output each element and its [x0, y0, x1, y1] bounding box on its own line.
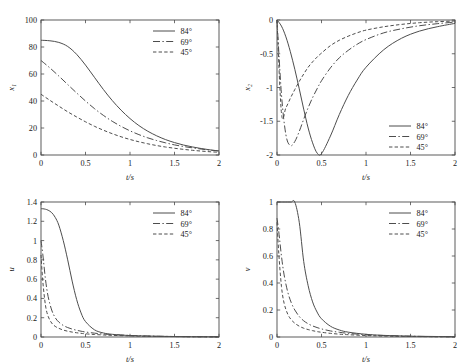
panel-x1-svg: 00.511.52020406080100t/sx₁84°69°45° — [0, 0, 236, 182]
x-axis-label: t/s — [126, 355, 134, 364]
legend-label-84deg: 84° — [181, 209, 192, 218]
legend: 84°69°45° — [389, 209, 428, 239]
legend: 84°69°45° — [153, 209, 192, 239]
y-tick-label: 1.2 — [27, 217, 37, 226]
panel-u: 00.511.5200.20.40.60.811.21.4t/su84°69°4… — [0, 182, 236, 364]
legend-label-69deg: 69° — [417, 220, 428, 229]
y-tick-label: 20 — [29, 124, 37, 133]
x-tick-label: 1.5 — [169, 341, 179, 350]
legend-label-69deg: 69° — [181, 220, 192, 229]
x-tick-label: 0.5 — [316, 341, 326, 350]
curve-84deg — [41, 209, 219, 337]
x-tick-label: 1.5 — [405, 341, 415, 350]
x-tick-label: 0 — [275, 341, 279, 350]
legend-label-69deg: 69° — [181, 38, 192, 47]
x-axis-label: t/s — [362, 173, 370, 182]
x-tick-label: 0 — [39, 341, 43, 350]
x-tick-label: 1.5 — [169, 159, 179, 168]
plot-frame — [277, 202, 455, 337]
y-tick-label: 40 — [29, 97, 37, 106]
curve-45deg — [41, 255, 219, 337]
curve-69deg — [277, 218, 455, 337]
y-tick-label: 0.4 — [27, 294, 37, 303]
x-tick-label: 0 — [275, 159, 279, 168]
y-tick-label: 0.4 — [263, 279, 273, 288]
curve-69deg — [277, 20, 455, 146]
legend-label-84deg: 84° — [417, 209, 428, 218]
legend-label-69deg: 69° — [417, 133, 428, 142]
legend-label-45deg: 45° — [181, 230, 192, 239]
y-tick-label: 0 — [33, 151, 37, 160]
x-tick-label: 2 — [217, 341, 221, 350]
x-tick-label: 2 — [217, 159, 221, 168]
x-tick-label: 1 — [364, 159, 368, 168]
y-tick-label: 100 — [25, 16, 37, 25]
panel-x1: 00.511.52020406080100t/sx₁84°69°45° — [0, 0, 236, 182]
x-tick-label: 1 — [364, 341, 368, 350]
panel-v: 00.511.5200.20.40.60.81t/sv84°69°45° — [236, 182, 472, 364]
panel-x2-svg: 00.511.52-2-1.5-1-0.50t/sx₂84°69°45° — [236, 0, 472, 182]
x-tick-label: 1 — [128, 159, 132, 168]
x-axis-label: t/s — [126, 173, 134, 182]
figure-container: 00.511.52020406080100t/sx₁84°69°45° 00.5… — [0, 0, 473, 364]
x-tick-label: 1 — [128, 341, 132, 350]
y-tick-label: -1 — [266, 84, 273, 93]
x-tick-label: 2 — [453, 341, 457, 350]
legend-label-84deg: 84° — [417, 122, 428, 131]
legend-label-45deg: 45° — [417, 143, 428, 152]
curve-84deg — [277, 201, 455, 337]
y-tick-label: 1 — [269, 198, 273, 207]
y-axis-label: v — [243, 267, 252, 271]
curve-69deg — [41, 241, 219, 337]
y-tick-label: 0.8 — [263, 225, 273, 234]
x-tick-label: 0 — [39, 159, 43, 168]
y-tick-label: 1.4 — [27, 198, 37, 207]
y-tick-label: -2 — [266, 151, 273, 160]
legend-label-84deg: 84° — [181, 27, 192, 36]
legend: 84°69°45° — [389, 122, 428, 152]
y-tick-label: 60 — [29, 70, 37, 79]
x-axis-label: t/s — [362, 355, 370, 364]
plot-frame — [41, 20, 219, 155]
curve-45deg — [41, 94, 219, 152]
legend-label-45deg: 45° — [181, 48, 192, 57]
x-tick-label: 1.5 — [405, 159, 415, 168]
legend: 84°69°45° — [153, 27, 192, 57]
plot-frame — [277, 20, 455, 155]
panel-v-svg: 00.511.5200.20.40.60.81t/sv84°69°45° — [236, 182, 472, 364]
y-axis-label: u — [7, 267, 16, 271]
y-tick-label: -0.5 — [260, 50, 273, 59]
y-tick-label: 80 — [29, 43, 37, 52]
y-tick-label: 0.6 — [27, 275, 37, 284]
y-tick-label: 0.2 — [27, 314, 37, 323]
y-tick-label: 0.6 — [263, 252, 273, 261]
y-tick-label: 0 — [33, 333, 37, 342]
curve-84deg — [277, 20, 455, 155]
y-tick-label: 0.2 — [263, 306, 273, 315]
y-tick-label: 1 — [33, 237, 37, 246]
y-tick-label: -1.5 — [260, 117, 273, 126]
x-tick-label: 2 — [453, 159, 457, 168]
panel-u-svg: 00.511.5200.20.40.60.811.21.4t/su84°69°4… — [0, 182, 236, 364]
x-tick-label: 0.5 — [80, 341, 90, 350]
curve-69deg — [41, 61, 219, 151]
y-tick-label: 0 — [269, 333, 273, 342]
y-tick-label: 0 — [269, 16, 273, 25]
curve-45deg — [277, 20, 455, 119]
legend-label-45deg: 45° — [417, 230, 428, 239]
plot-frame — [41, 202, 219, 337]
y-axis-label: x₁ — [7, 84, 16, 92]
panel-x2: 00.511.52-2-1.5-1-0.50t/sx₂84°69°45° — [236, 0, 472, 182]
x-tick-label: 0.5 — [316, 159, 326, 168]
y-tick-label: 0.8 — [27, 256, 37, 265]
curve-45deg — [277, 222, 455, 337]
y-axis-label: x₂ — [243, 84, 252, 92]
x-tick-label: 0.5 — [80, 159, 90, 168]
curve-84deg — [41, 40, 219, 151]
